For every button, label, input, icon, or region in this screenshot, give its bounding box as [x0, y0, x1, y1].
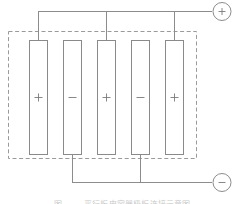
- schematic-svg: [0, 0, 245, 204]
- plate-4: [132, 41, 150, 155]
- negative-terminal[interactable]: [213, 174, 231, 192]
- positive-bus: [38, 12, 212, 41]
- plate-5: [166, 41, 184, 155]
- positive-terminal[interactable]: [213, 3, 231, 21]
- negative-bus: [72, 155, 212, 183]
- plate-3: [98, 41, 116, 155]
- plate-2: [64, 41, 82, 155]
- figure-caption-text: 图 —— 平行板电容器极板连接示意图: [54, 200, 190, 204]
- figure-caption: 图 —— 平行板电容器极板连接示意图: [0, 193, 245, 204]
- plate-1: [30, 41, 48, 155]
- figure-canvas: 图 —— 平行板电容器极板连接示意图: [0, 0, 245, 204]
